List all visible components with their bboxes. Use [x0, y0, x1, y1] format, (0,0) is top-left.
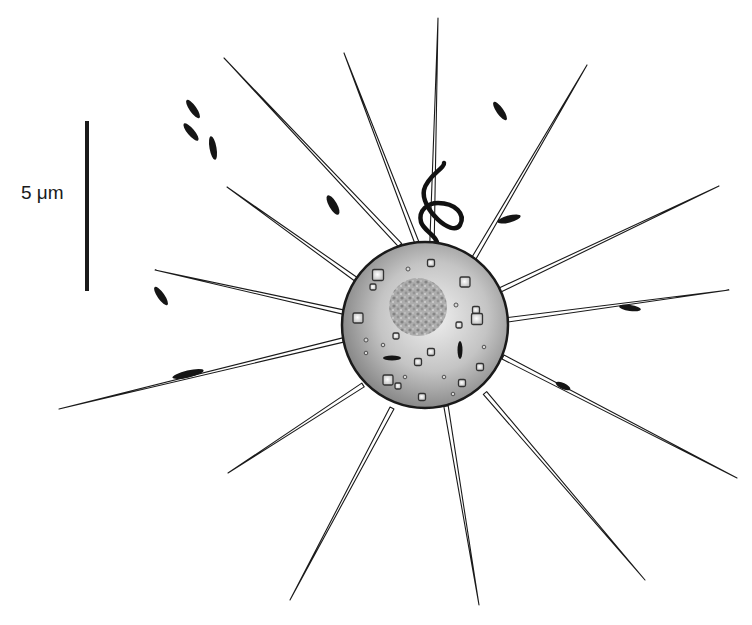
vesicle [395, 383, 401, 389]
vesicle [393, 333, 399, 339]
vesicle [383, 375, 393, 385]
rod-body [184, 98, 202, 120]
rod-body [491, 100, 509, 122]
spine [59, 338, 344, 409]
granule [442, 375, 446, 379]
granule [381, 343, 385, 347]
granule [403, 375, 407, 379]
rod-body [383, 356, 401, 361]
vesicle [459, 380, 466, 387]
vesicle [419, 394, 426, 401]
spine [155, 270, 343, 314]
vesicle [353, 313, 363, 323]
granule [454, 303, 458, 307]
spine [499, 186, 719, 292]
vesicle [472, 314, 483, 325]
vesicle [477, 364, 484, 371]
rod-body [324, 193, 342, 216]
spine [444, 406, 479, 605]
vesicle [415, 359, 422, 366]
granule [364, 351, 368, 355]
spine [228, 383, 364, 473]
vesicle [370, 284, 376, 290]
vesicle [456, 322, 462, 328]
rod-body [152, 285, 170, 307]
spine [290, 407, 394, 600]
rod-body [207, 136, 218, 161]
spine [506, 290, 729, 322]
spine [502, 355, 737, 478]
granule [451, 392, 455, 396]
granule [406, 267, 410, 271]
cell-diagram [0, 0, 752, 625]
spine [472, 65, 587, 259]
spine [483, 392, 645, 580]
vesicle [460, 277, 470, 287]
spine [227, 187, 358, 282]
spine [224, 58, 402, 247]
granule [482, 345, 486, 349]
nucleus [389, 278, 447, 336]
flagellum [420, 163, 461, 248]
rod-body [458, 341, 463, 359]
vesicle [428, 260, 435, 267]
spine [344, 53, 419, 244]
granule [364, 338, 368, 342]
vesicle [428, 349, 435, 356]
rod-body [181, 121, 201, 142]
vesicle [373, 270, 384, 281]
vesicle [473, 307, 480, 314]
